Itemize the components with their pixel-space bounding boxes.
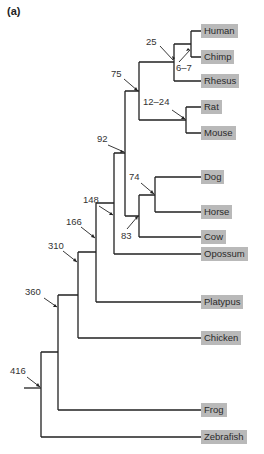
divergence-time-74: 74 — [129, 171, 140, 182]
taxon-label-rhesus: Rhesus — [201, 74, 239, 88]
taxon-label-frog: Frog — [201, 403, 227, 417]
divergence-time-75: 75 — [111, 68, 122, 79]
divergence-time-25: 25 — [146, 36, 157, 47]
taxon-label-chicken: Chicken — [201, 331, 241, 345]
divergence-time-12-24: 12–24 — [143, 96, 169, 107]
taxon-label-horse: Horse — [201, 205, 232, 219]
taxon-label-platypus: Platypus — [201, 295, 243, 309]
taxon-label-dog: Dog — [201, 170, 224, 184]
divergence-time-83: 83 — [121, 230, 132, 241]
taxon-label-human: Human — [201, 24, 238, 38]
taxon-label-opossum: Opossum — [201, 247, 248, 261]
divergence-time-416: 416 — [10, 365, 26, 376]
divergence-time-6-7: 6–7 — [176, 62, 192, 73]
divergence-time-92: 92 — [97, 133, 108, 144]
taxon-label-mouse: Mouse — [201, 126, 236, 140]
taxon-label-zebrafish: Zebrafish — [201, 430, 247, 444]
taxon-label-rat: Rat — [201, 100, 222, 114]
taxon-label-chimp: Chimp — [201, 50, 234, 64]
divergence-time-360: 360 — [25, 286, 41, 297]
divergence-time-148: 148 — [83, 194, 99, 205]
tree-branches — [0, 0, 264, 454]
taxon-label-cow: Cow — [201, 230, 226, 244]
divergence-time-166: 166 — [66, 216, 82, 227]
divergence-time-310: 310 — [48, 240, 64, 251]
